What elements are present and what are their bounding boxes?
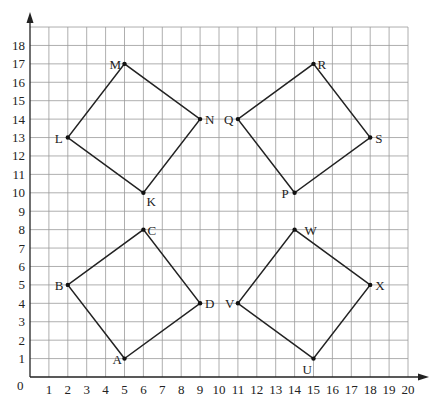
square-abcd: ABCD: [55, 223, 215, 367]
x-tick-label: 11: [232, 382, 245, 397]
x-tick-label: 7: [159, 382, 166, 397]
y-tick-label: 13: [12, 130, 25, 145]
square-outline: [238, 64, 370, 193]
y-tick-label: 11: [12, 167, 25, 182]
axes: 0: [17, 12, 429, 393]
vertex-label-q: Q: [224, 112, 234, 127]
vertex-label-a: A: [113, 352, 123, 367]
tick-labels: 1234567891011121314151617181920123456789…: [12, 38, 415, 397]
coordinate-plane: 0 12345678910111213141516171819201234567…: [0, 0, 434, 406]
origin-label: 0: [17, 378, 24, 393]
y-axis-arrow-icon: [27, 12, 34, 23]
y-tick-label: 5: [19, 277, 26, 292]
vertex-label-d: D: [205, 296, 214, 311]
vertex-dot-icon: [198, 301, 202, 305]
vertex-dot-icon: [236, 301, 240, 305]
vertex-dot-icon: [66, 283, 70, 287]
x-tick-label: 9: [197, 382, 204, 397]
vertex-label-b: B: [55, 278, 64, 293]
vertex-label-u: U: [303, 362, 313, 377]
y-tick-label: 10: [12, 185, 25, 200]
x-axis-arrow-icon: [418, 374, 429, 381]
vertex-dot-icon: [122, 62, 126, 66]
vertex-dot-icon: [292, 191, 296, 195]
vertex-dot-icon: [368, 135, 372, 139]
vertex-label-v: V: [225, 296, 235, 311]
vertex-label-n: N: [205, 112, 215, 127]
vertex-dot-icon: [141, 191, 145, 195]
coordinate-grid-figure: 0 12345678910111213141516171819201234567…: [0, 0, 434, 406]
vertex-dot-icon: [141, 227, 145, 231]
x-tick-label: 14: [288, 382, 302, 397]
vertex-label-c: C: [147, 223, 156, 238]
vertex-dot-icon: [198, 117, 202, 121]
vertex-label-s: S: [375, 131, 382, 146]
y-tick-label: 1: [19, 351, 26, 366]
vertex-dot-icon: [311, 356, 315, 360]
y-tick-label: 6: [19, 259, 26, 274]
x-tick-label: 3: [83, 382, 90, 397]
vertex-label-p: P: [282, 186, 289, 201]
y-tick-label: 8: [19, 222, 26, 237]
x-tick-label: 13: [269, 382, 282, 397]
square-outline: [68, 230, 200, 359]
x-tick-label: 17: [345, 382, 359, 397]
vertex-label-m: M: [110, 57, 122, 72]
y-tick-label: 16: [12, 75, 26, 90]
vertex-label-l: L: [55, 131, 63, 146]
square-uvwx: UVWX: [225, 223, 385, 377]
y-tick-label: 12: [12, 148, 25, 163]
x-tick-label: 15: [307, 382, 320, 397]
y-tick-label: 2: [19, 333, 26, 348]
x-tick-label: 16: [326, 382, 340, 397]
x-tick-label: 6: [140, 382, 147, 397]
square-pqrs: PQRS: [224, 57, 383, 201]
vertex-label-w: W: [305, 223, 318, 238]
y-tick-label: 9: [19, 204, 26, 219]
grid-lines: [30, 27, 408, 377]
y-tick-label: 15: [12, 93, 25, 108]
square-klmn: KLMN: [55, 57, 215, 209]
vertex-dot-icon: [311, 62, 315, 66]
vertex-dot-icon: [292, 227, 296, 231]
vertex-label-x: X: [375, 278, 385, 293]
y-tick-label: 18: [12, 38, 25, 53]
vertex-label-k: K: [146, 194, 156, 209]
vertex-dot-icon: [368, 283, 372, 287]
y-tick-label: 17: [12, 56, 26, 71]
vertex-dot-icon: [66, 135, 70, 139]
y-tick-label: 14: [12, 112, 26, 127]
x-tick-label: 18: [364, 382, 377, 397]
y-tick-label: 4: [19, 296, 26, 311]
squares: ABCDKLMNPQRSUVWX: [55, 57, 385, 377]
y-tick-label: 3: [19, 314, 26, 329]
square-outline: [68, 64, 200, 193]
vertex-label-r: R: [318, 57, 327, 72]
x-tick-label: 8: [178, 382, 185, 397]
x-tick-label: 20: [402, 382, 415, 397]
x-tick-label: 4: [102, 382, 109, 397]
x-tick-label: 2: [65, 382, 72, 397]
x-tick-label: 19: [383, 382, 396, 397]
y-tick-label: 7: [19, 241, 26, 256]
vertex-dot-icon: [236, 117, 240, 121]
x-tick-label: 10: [213, 382, 226, 397]
x-tick-label: 12: [250, 382, 263, 397]
vertex-dot-icon: [122, 356, 126, 360]
x-tick-label: 5: [121, 382, 128, 397]
square-outline: [238, 230, 370, 359]
x-tick-label: 1: [46, 382, 53, 397]
